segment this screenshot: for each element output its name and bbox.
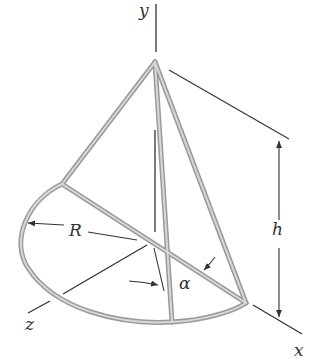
- y-axis-label: y: [138, 0, 149, 20]
- half-cone-diagram: y x z R h α: [0, 0, 317, 362]
- alpha-arrow-right: [204, 257, 215, 270]
- r-dimension-right: [88, 232, 137, 240]
- z-axis-label: z: [24, 314, 35, 334]
- radius-label: R: [68, 220, 82, 240]
- z-axis-line: [28, 301, 50, 313]
- alpha-arrow-left: [129, 281, 158, 285]
- x-axis-label: x: [294, 340, 304, 360]
- angle-alpha-label: α: [179, 273, 191, 293]
- z-axis-inner-line: [63, 245, 147, 294]
- axes: [28, 4, 302, 334]
- x-axis-line: [253, 305, 302, 334]
- height-label: h: [272, 219, 283, 239]
- h-top-extension: [169, 70, 289, 139]
- cone-rods: [21, 62, 246, 322]
- r-dimension-left: [28, 223, 64, 225]
